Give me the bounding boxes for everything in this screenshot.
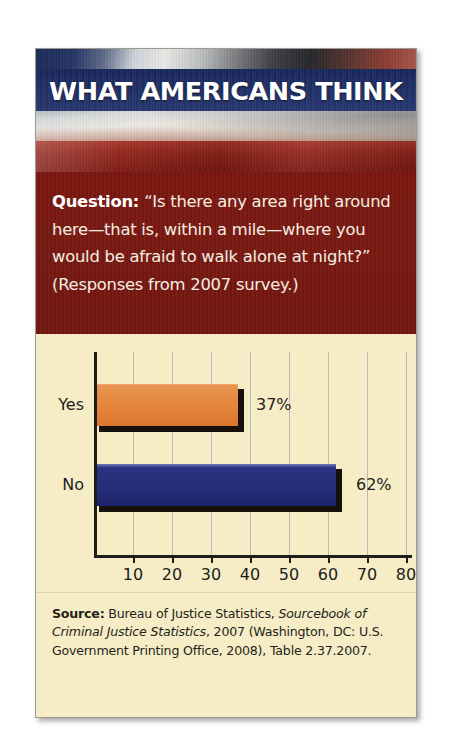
x-tick-label-80: 80 bbox=[389, 565, 417, 584]
x-tick-40 bbox=[250, 555, 252, 563]
question-text: Question: “Is there any area right aroun… bbox=[52, 188, 400, 298]
bar-yes bbox=[94, 384, 238, 426]
bar-no bbox=[94, 464, 336, 506]
flag-red-stripe bbox=[36, 141, 416, 172]
source-part1: Bureau of Justice Statistics, bbox=[105, 606, 279, 621]
gridline-30 bbox=[211, 352, 212, 557]
bar-group-no: No 62% bbox=[94, 464, 336, 506]
page-title: WHAT AMERICANS THINK bbox=[49, 72, 403, 110]
gridline-70 bbox=[367, 352, 368, 557]
gridline-80 bbox=[406, 352, 407, 557]
bar-shadow-right-yes bbox=[238, 389, 244, 431]
source-label: Source: bbox=[52, 606, 105, 621]
gridline-60 bbox=[328, 352, 329, 557]
x-tick-30 bbox=[211, 555, 213, 563]
bar-shadow-right-no bbox=[336, 469, 342, 511]
flag-header: WHAT AMERICANS THINK bbox=[36, 49, 416, 172]
source-text: Source: Bureau of Justice Statistics, So… bbox=[52, 605, 400, 660]
x-tick-80 bbox=[406, 555, 408, 563]
x-tick-label-30: 30 bbox=[194, 565, 228, 584]
value-label-yes: 37% bbox=[256, 395, 292, 414]
chart-panel: Yes 37% No 62% bbox=[36, 334, 416, 592]
x-tick-label-20: 20 bbox=[155, 565, 189, 584]
x-axis-line bbox=[94, 555, 412, 558]
y-axis-line bbox=[94, 352, 97, 557]
x-tick-10 bbox=[133, 555, 135, 563]
what-americans-think-card: WHAT AMERICANS THINK Question: “Is there… bbox=[35, 48, 417, 718]
x-tick-label-40: 40 bbox=[233, 565, 267, 584]
bar-shadow-bottom-yes bbox=[99, 426, 244, 432]
gridline-20 bbox=[172, 352, 173, 557]
flag-white-stripe bbox=[36, 111, 416, 145]
bar-group-yes: Yes 37% bbox=[94, 384, 238, 426]
question-panel: Question: “Is there any area right aroun… bbox=[36, 172, 416, 334]
source-panel: Source: Bureau of Justice Statistics, So… bbox=[36, 592, 416, 672]
bar-chart-plot: Yes 37% No 62% bbox=[94, 352, 412, 557]
x-tick-label-60: 60 bbox=[311, 565, 345, 584]
x-tick-60 bbox=[328, 555, 330, 563]
gridline-50 bbox=[289, 352, 290, 557]
question-label: Question: bbox=[52, 192, 139, 211]
flag-top-stripe bbox=[36, 49, 416, 71]
page-root: WHAT AMERICANS THINK Question: “Is there… bbox=[0, 0, 449, 745]
category-label-yes: Yes bbox=[58, 395, 84, 414]
x-tick-label-10: 10 bbox=[116, 565, 150, 584]
value-label-no: 62% bbox=[356, 475, 392, 494]
x-tick-50 bbox=[289, 555, 291, 563]
gridline-40 bbox=[250, 352, 251, 557]
bar-shadow-bottom-no bbox=[99, 506, 342, 512]
gridline-10 bbox=[133, 352, 134, 557]
x-tick-label-50: 50 bbox=[272, 565, 306, 584]
category-label-no: No bbox=[62, 475, 84, 494]
x-tick-20 bbox=[172, 555, 174, 563]
x-tick-label-70: 70 bbox=[350, 565, 384, 584]
x-tick-70 bbox=[367, 555, 369, 563]
